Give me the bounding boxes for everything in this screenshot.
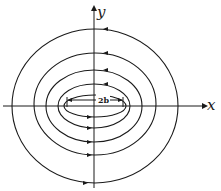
field-line-2	[34, 53, 156, 155]
x-axis-label: x	[207, 96, 216, 114]
arrow-right-icon	[87, 115, 92, 119]
arrow-right-icon	[87, 153, 92, 157]
field-lines-diagram: 2b y x	[0, 0, 221, 191]
y-axis-label: y	[96, 3, 106, 21]
dimension-2b: 2b	[67, 94, 123, 107]
arrow-right-icon	[87, 126, 92, 130]
arrow-right-icon	[87, 140, 92, 144]
arrow-right-icon	[83, 181, 88, 185]
arrow-left-icon	[103, 27, 108, 31]
arrow-left-icon	[103, 51, 108, 55]
dimension-label: 2b	[98, 95, 110, 105]
